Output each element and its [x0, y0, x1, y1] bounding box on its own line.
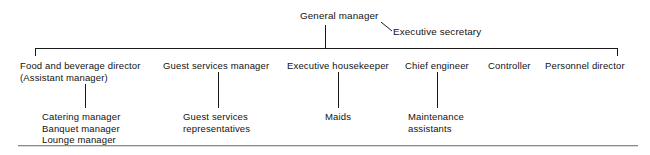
connector-horizontal-bus	[35, 48, 618, 49]
organizational-chart: General manager Executive secretary Food…	[0, 0, 650, 155]
report-label: Maids	[325, 111, 351, 123]
report-label: Guest services	[183, 111, 250, 123]
department-title-line1: Executive housekeeper	[287, 60, 389, 72]
node-general-manager: General manager	[300, 10, 379, 22]
connector-bus-right-endcap	[617, 48, 618, 56]
node-executive-secretary: Executive secretary	[393, 26, 481, 38]
node-housekeeper-reports: Maids	[325, 111, 351, 123]
report-label: representatives	[183, 123, 250, 135]
node-food-and-beverage-director: Food and beverage director (Assistant ma…	[20, 60, 141, 83]
node-engineer-reports: Maintenance assistants	[408, 111, 464, 134]
connector-general-manager-stem	[325, 25, 326, 48]
department-title-line1: Guest services manager	[163, 60, 269, 72]
node-food-beverage-reports: Catering manager Banquet manager Lounge …	[42, 111, 120, 146]
connector-food-beverage-stub	[85, 84, 86, 108]
report-label: Maintenance	[408, 111, 464, 123]
general-manager-label: General manager	[300, 10, 379, 22]
connector-guest-services-stub	[218, 72, 219, 108]
department-title-line1: Chief engineer	[405, 60, 469, 72]
node-chief-engineer: Chief engineer	[405, 60, 469, 72]
node-guest-services-manager: Guest services manager	[163, 60, 269, 72]
node-controller: Controller	[488, 60, 531, 72]
executive-secretary-label: Executive secretary	[393, 26, 481, 38]
connector-housekeeper-stub	[338, 72, 339, 108]
connector-engineer-stub	[437, 72, 438, 108]
node-personnel-director: Personnel director	[545, 60, 625, 72]
report-label: assistants	[408, 123, 464, 135]
node-executive-housekeeper: Executive housekeeper	[287, 60, 389, 72]
department-title-line1: Controller	[488, 60, 531, 72]
department-title-line1: Food and beverage director	[20, 60, 141, 72]
node-guest-services-reports: Guest services representatives	[183, 111, 250, 134]
department-title-line1: Personnel director	[545, 60, 625, 72]
report-label: Lounge manager	[42, 134, 120, 146]
report-label: Catering manager	[42, 111, 120, 123]
department-title-line2: (Assistant manager)	[20, 72, 141, 84]
bottom-rule-divider	[18, 145, 638, 146]
connector-bus-left-endcap	[35, 48, 36, 56]
report-label: Banquet manager	[42, 123, 120, 135]
